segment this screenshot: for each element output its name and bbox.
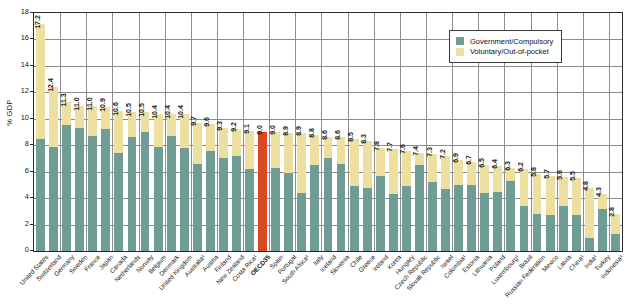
bar-stack (88, 106, 97, 251)
bar-value-label: 8.9 (295, 126, 302, 136)
bar-group[interactable]: 17.2 (36, 13, 45, 251)
bar-value-label: 5.8 (530, 167, 537, 177)
bar-value-label: 8.9 (282, 126, 289, 136)
bar-value-label: 10.4 (164, 105, 171, 119)
bar-group[interactable]: 8.3 (363, 13, 372, 251)
bar-group[interactable]: 11.3 (62, 13, 71, 251)
bar-segment-government (376, 176, 385, 251)
bar-group[interactable]: 7.8 (376, 13, 385, 251)
bar-group[interactable]: 8.9 (297, 13, 306, 251)
y-axis-tick-label: 10 (21, 114, 29, 122)
bar-segment-voluntary (376, 148, 385, 176)
bar-value-label: 7.3 (426, 148, 433, 158)
bar-group[interactable]: 7.4 (415, 13, 424, 251)
bar-value-label: 9.6 (203, 117, 210, 127)
bar-stack (376, 148, 385, 251)
bar-group[interactable]: 10.4 (154, 13, 163, 251)
bar-segment-government (75, 128, 84, 251)
bar-value-label: 8.6 (334, 130, 341, 140)
y-axis-tick-label: 0 (25, 246, 29, 254)
bar-value-label: 5.5 (569, 171, 576, 181)
bar-group[interactable]: 10.5 (141, 13, 150, 251)
bar-group[interactable]: 10.4 (167, 13, 176, 251)
bar-value-label: 6.3 (504, 161, 511, 171)
bar-group[interactable]: 9.6 (206, 13, 215, 251)
bar-segment-government (271, 168, 280, 251)
bar-segment-voluntary (454, 160, 463, 185)
bar-segment-government (533, 214, 542, 251)
bar-segment-government (62, 125, 71, 251)
bar-group[interactable]: 4.8 (585, 13, 594, 251)
bar-group[interactable]: 9.2 (232, 13, 241, 251)
bar-stack (350, 139, 359, 251)
bar-segment-voluntary (493, 166, 502, 191)
bar-stack (572, 178, 581, 251)
bar-segment-voluntary (480, 165, 489, 193)
bar-stack (506, 168, 515, 251)
y-axis-tick-label: 2 (25, 220, 29, 228)
bar-stack (167, 114, 176, 252)
bar-stack (75, 106, 84, 251)
bar-group[interactable]: 7.6 (402, 13, 411, 251)
bar-segment-government (206, 151, 215, 251)
bar-segment-government (154, 147, 163, 251)
bar-group[interactable]: 7.7 (389, 13, 398, 251)
bar-segment-government (506, 181, 515, 251)
y-axis-tick-label: 12 (21, 88, 29, 96)
bar-value-label: 4.3 (595, 187, 602, 197)
bar-stack (415, 153, 424, 251)
bar-segment-government (493, 192, 502, 252)
bar-value-label: 8.3 (360, 134, 367, 144)
bar-value-label: 10.9 (99, 98, 106, 112)
bar-group[interactable]: 9.0 (258, 13, 267, 251)
bar-stack (258, 132, 267, 251)
bar-segment-government (402, 186, 411, 251)
bar-stack (271, 132, 280, 251)
bar-group[interactable]: 2.8 (611, 13, 620, 251)
bar-group[interactable]: 9.3 (219, 13, 228, 251)
bar-group[interactable]: 10.4 (180, 13, 189, 251)
bar-group[interactable]: 10.6 (114, 13, 123, 251)
bar-group[interactable]: 8.6 (324, 13, 333, 251)
bar-group[interactable]: 11.0 (75, 13, 84, 251)
bar-group[interactable]: 7.3 (428, 13, 437, 251)
bar-segment-government (611, 234, 620, 251)
bar-stack (245, 131, 254, 251)
bar-value-label: 11.0 (86, 97, 93, 110)
bar-value-label: 2.8 (608, 207, 615, 217)
bar-segment-government (415, 165, 424, 251)
bar-value-label: 7.7 (386, 142, 393, 152)
bar-segment-government (167, 136, 176, 251)
bar-group[interactable]: 5.5 (572, 13, 581, 251)
bar-stack (389, 149, 398, 251)
bar-value-label: 6.9 (452, 153, 459, 163)
bar-group[interactable]: 10.5 (128, 13, 137, 251)
bar-group[interactable]: 11.0 (88, 13, 97, 251)
bar-segment-voluntary (389, 149, 398, 194)
y-axis-tick-label: 18 (21, 8, 29, 16)
bar-value-label: 10.5 (125, 103, 132, 117)
health-expenditure-chart: 024681012141618 % GDP 17.212.411.311.011… (0, 0, 628, 308)
bar-group[interactable]: 9.1 (245, 13, 254, 251)
bar-stack (49, 87, 58, 251)
bar-segment-government (219, 158, 228, 251)
bar-value-label: 6.7 (465, 156, 472, 166)
bar-group[interactable]: 9.0 (271, 13, 280, 251)
bar-value-label: 9.1 (243, 124, 250, 134)
bar-stack (337, 137, 346, 251)
bar-stack (219, 128, 228, 251)
bar-group[interactable]: 8.8 (310, 13, 319, 251)
bar-group[interactable]: 8.6 (337, 13, 346, 251)
bar-segment-government (454, 185, 463, 251)
bar-stack (114, 111, 123, 251)
bar-segment-government (114, 153, 123, 251)
bar-group[interactable]: 12.4 (49, 13, 58, 251)
bar-group[interactable]: 10.9 (101, 13, 110, 251)
bar-group[interactable]: 8.9 (284, 13, 293, 251)
bar-segment-voluntary (271, 132, 280, 168)
bar-group[interactable]: 4.3 (598, 13, 607, 251)
bar-segment-government (232, 156, 241, 251)
bar-group[interactable]: 8.5 (350, 13, 359, 251)
bar-stack (62, 102, 71, 251)
bar-group[interactable]: 9.7 (193, 13, 202, 251)
